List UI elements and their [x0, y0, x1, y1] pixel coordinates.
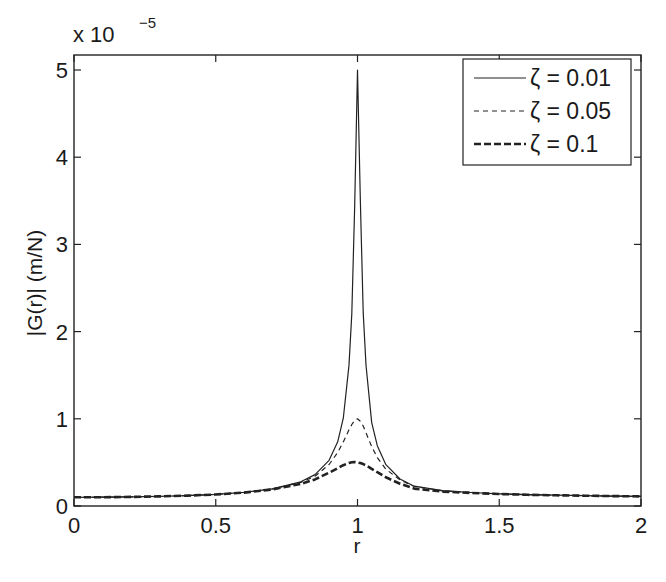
x-tick-label: 0.5	[200, 513, 231, 538]
legend-label-1: ζ = 0.05	[530, 98, 611, 124]
legend-label-2: ζ = 0.1	[530, 131, 598, 157]
y-tick-label: 3	[56, 232, 68, 257]
x-tick-label: 0	[68, 513, 80, 538]
y-exponent-base: x 10	[73, 22, 115, 47]
y-tick-label: 1	[56, 407, 68, 432]
y-tick-label: 5	[56, 58, 68, 83]
x-tick-label: 2	[635, 513, 647, 538]
frf-chart: 00.511.52 012345 x 10 −5 r |G(r)| (m/N) …	[0, 0, 666, 582]
y-tick-label: 4	[56, 145, 68, 170]
series-line-2	[74, 462, 641, 497]
x-axis-label: r	[354, 534, 361, 557]
legend-label-0: ζ = 0.01	[530, 65, 611, 91]
y-exponent-power: −5	[139, 14, 156, 31]
series-line-1	[74, 419, 641, 498]
y-tick-label: 2	[56, 320, 68, 345]
x-tick-label: 1.5	[484, 513, 515, 538]
y-axis-label: |G(r)| (m/N)	[23, 230, 46, 337]
y-tick-label: 0	[56, 494, 68, 519]
legend: ζ = 0.01 ζ = 0.05 ζ = 0.1	[463, 59, 631, 165]
